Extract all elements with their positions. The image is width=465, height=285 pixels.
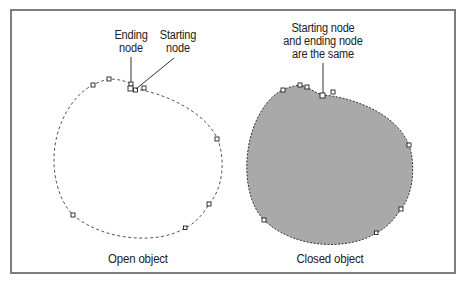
ending-node	[129, 82, 133, 86]
node	[305, 85, 309, 89]
starting-node-label-line2: node	[158, 42, 198, 55]
node	[281, 88, 285, 92]
node	[91, 83, 95, 87]
node	[262, 218, 266, 222]
closed-object-caption: Closed object	[290, 252, 369, 265]
node	[207, 202, 211, 206]
node	[375, 231, 379, 235]
closed-object	[247, 63, 413, 244]
node	[399, 207, 403, 211]
start-end-same-label: Starting node and ending node are the sa…	[278, 22, 368, 61]
ending-node-label: Ending node	[114, 29, 147, 55]
node	[71, 213, 75, 217]
node	[215, 137, 219, 141]
node	[107, 77, 111, 81]
ending-node-label-line2: node	[114, 42, 147, 55]
ending-node-large	[128, 86, 133, 91]
diagram-canvas	[0, 0, 465, 285]
node	[142, 86, 146, 90]
node	[298, 83, 302, 87]
open-object-caption: Open object	[103, 252, 173, 265]
starting-node-label: Starting node	[158, 29, 198, 55]
start-end-same-label-line3: are the same	[278, 48, 368, 61]
start-end-node	[320, 93, 325, 98]
node	[407, 143, 411, 147]
node	[331, 90, 335, 94]
open-object-path	[54, 79, 222, 238]
closed-object-path	[247, 85, 413, 244]
open-object	[54, 57, 222, 238]
starting-node-leader	[136, 58, 174, 89]
node	[184, 226, 188, 230]
